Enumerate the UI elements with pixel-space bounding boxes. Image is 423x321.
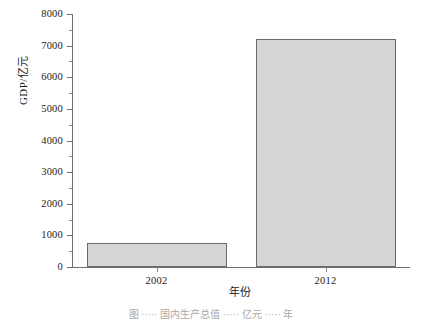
y-axis-tick (67, 109, 72, 110)
x-axis-line (72, 267, 410, 268)
y-axis-tick (67, 77, 72, 78)
y-axis-tick-label: 2000 (41, 199, 63, 210)
y-axis-tick-label: 0 (58, 262, 63, 273)
y-axis-minor-tick (69, 156, 72, 157)
y-axis-tick-label: 7000 (41, 40, 63, 51)
y-axis-minor-tick (69, 220, 72, 221)
x-axis-tick (157, 267, 158, 272)
y-axis-minor-tick (69, 188, 72, 189)
y-axis-minor-tick (69, 61, 72, 62)
y-axis-tick-label: 1000 (41, 230, 63, 241)
y-axis-minor-tick (69, 30, 72, 31)
x-axis-title: 年份 (229, 283, 251, 299)
y-axis-line (72, 14, 73, 267)
y-axis-tick (67, 46, 72, 47)
y-axis-tick-label: 8000 (41, 9, 63, 20)
y-axis-tick-label: 5000 (41, 104, 63, 115)
y-axis-minor-tick (69, 251, 72, 252)
bar (256, 39, 396, 267)
y-axis-tick (67, 267, 72, 268)
x-axis-tick-label: 2002 (145, 276, 167, 287)
bar (87, 243, 227, 267)
y-axis-tick (67, 235, 72, 236)
y-axis-tick-label: 4000 (41, 135, 63, 146)
y-axis-tick (67, 204, 72, 205)
y-axis-tick (67, 141, 72, 142)
y-axis-tick (67, 14, 72, 15)
y-axis-tick (67, 172, 72, 173)
y-axis-minor-tick (69, 125, 72, 126)
plot-area: 010002000300040005000600070008000 200220… (72, 14, 410, 267)
figure-caption: 图 ····· 国内生产总值 ····· 亿元 ····· 年 (129, 306, 294, 321)
y-axis-minor-tick (69, 93, 72, 94)
y-axis-title: GDP/亿元 (14, 56, 30, 105)
x-axis-tick (326, 267, 327, 272)
y-axis-tick-label: 3000 (41, 167, 63, 178)
x-axis-tick-label: 2012 (314, 276, 336, 287)
y-axis-tick-label: 6000 (41, 72, 63, 83)
